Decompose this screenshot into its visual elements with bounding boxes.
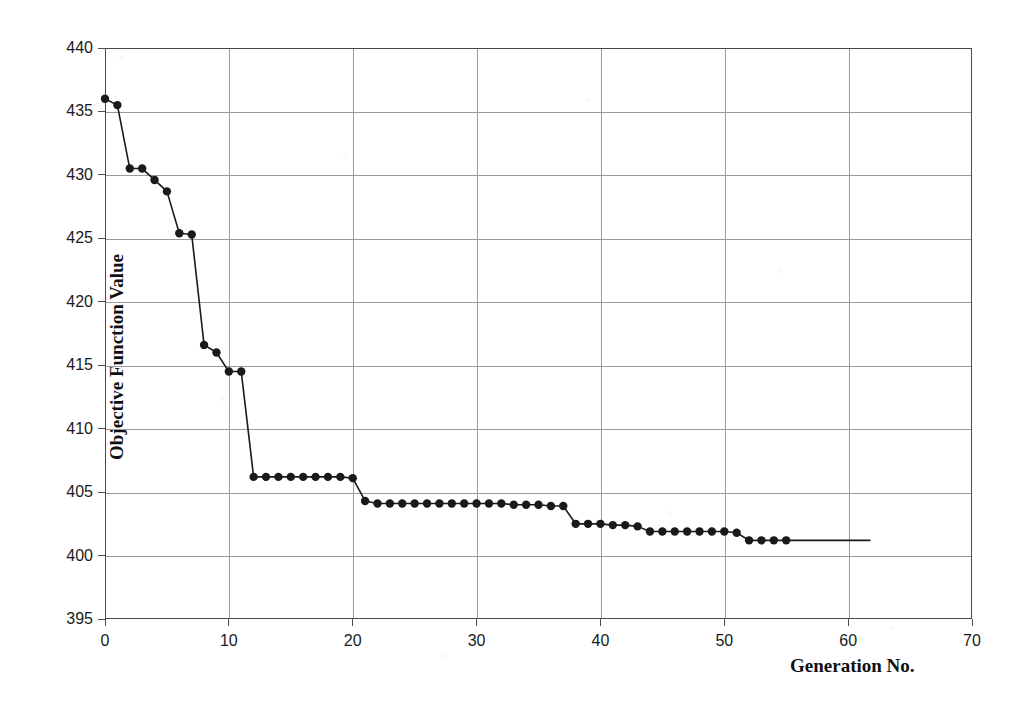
- x-tick-mark: [228, 619, 229, 626]
- x-tick-mark: [724, 619, 725, 626]
- x-tick-label: 30: [447, 633, 507, 649]
- x-tick-label: 20: [323, 633, 383, 649]
- y-tick-mark: [98, 365, 105, 366]
- x-tick-mark: [972, 619, 973, 626]
- y-tick-mark: [98, 111, 105, 112]
- y-tick-mark: [98, 301, 105, 302]
- y-tick-mark: [98, 555, 105, 556]
- x-tick-mark: [848, 619, 849, 626]
- y-tick-label: 430: [41, 167, 93, 183]
- y-tick-label: 435: [41, 103, 93, 119]
- gridline-vertical: [725, 49, 726, 618]
- y-tick-label: 415: [41, 357, 93, 373]
- x-axis-title: Generation No.: [790, 655, 915, 677]
- x-tick-label: 10: [199, 633, 259, 649]
- gridline-horizontal: [106, 239, 971, 240]
- gridline-vertical: [601, 49, 602, 618]
- y-tick-mark: [98, 428, 105, 429]
- y-tick-label: 425: [41, 230, 93, 246]
- gridline-horizontal: [106, 493, 971, 494]
- gridline-vertical: [229, 49, 230, 618]
- gridline-vertical: [849, 49, 850, 618]
- x-tick-mark: [105, 619, 106, 626]
- gridline-horizontal: [106, 112, 971, 113]
- y-tick-label: 420: [41, 294, 93, 310]
- x-tick-label: 60: [818, 633, 878, 649]
- y-tick-label: 410: [41, 421, 93, 437]
- x-tick-label: 0: [75, 633, 135, 649]
- gridline-vertical: [353, 49, 354, 618]
- x-tick-mark: [476, 619, 477, 626]
- chart-root: Objective Function Value Generation No. …: [0, 0, 1014, 713]
- gridline-vertical: [477, 49, 478, 618]
- gridline-horizontal: [106, 556, 971, 557]
- y-tick-label: 440: [41, 40, 93, 56]
- gridline-horizontal: [106, 366, 971, 367]
- gridline-horizontal: [106, 429, 971, 430]
- x-tick-label: 70: [942, 633, 1002, 649]
- y-tick-label: 405: [41, 484, 93, 500]
- y-tick-mark: [98, 174, 105, 175]
- gridline-horizontal: [106, 302, 971, 303]
- y-tick-mark: [98, 492, 105, 493]
- plot-area: [105, 48, 972, 619]
- y-tick-mark: [98, 48, 105, 49]
- y-tick-mark: [98, 238, 105, 239]
- y-tick-label: 400: [41, 548, 93, 564]
- x-tick-mark: [352, 619, 353, 626]
- gridline-horizontal: [106, 175, 971, 176]
- y-tick-label: 395: [41, 611, 93, 627]
- x-tick-label: 50: [694, 633, 754, 649]
- x-tick-label: 40: [570, 633, 630, 649]
- x-tick-mark: [600, 619, 601, 626]
